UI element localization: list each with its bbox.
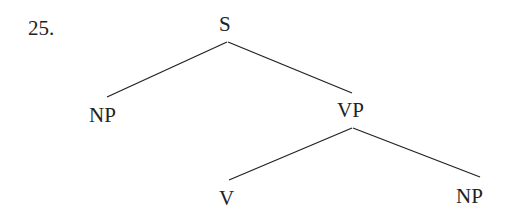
node-np-subject: NP <box>89 105 116 126</box>
node-v: V <box>219 188 234 209</box>
node-vp: VP <box>337 100 364 121</box>
edge-s-np <box>107 42 227 97</box>
edge-s-vp <box>228 42 352 93</box>
node-np-object: NP <box>456 186 483 207</box>
tree-edges <box>0 0 518 223</box>
edge-vp-np <box>353 128 480 177</box>
node-s: S <box>219 14 231 35</box>
example-number: 25. <box>28 18 54 39</box>
edge-vp-v <box>229 128 352 180</box>
